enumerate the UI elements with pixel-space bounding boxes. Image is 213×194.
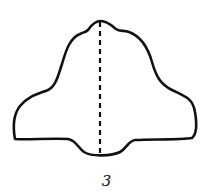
figure-number-label: 3: [0, 172, 213, 190]
bell-outline: [14, 21, 196, 155]
bell-shape-figure: [0, 0, 213, 194]
